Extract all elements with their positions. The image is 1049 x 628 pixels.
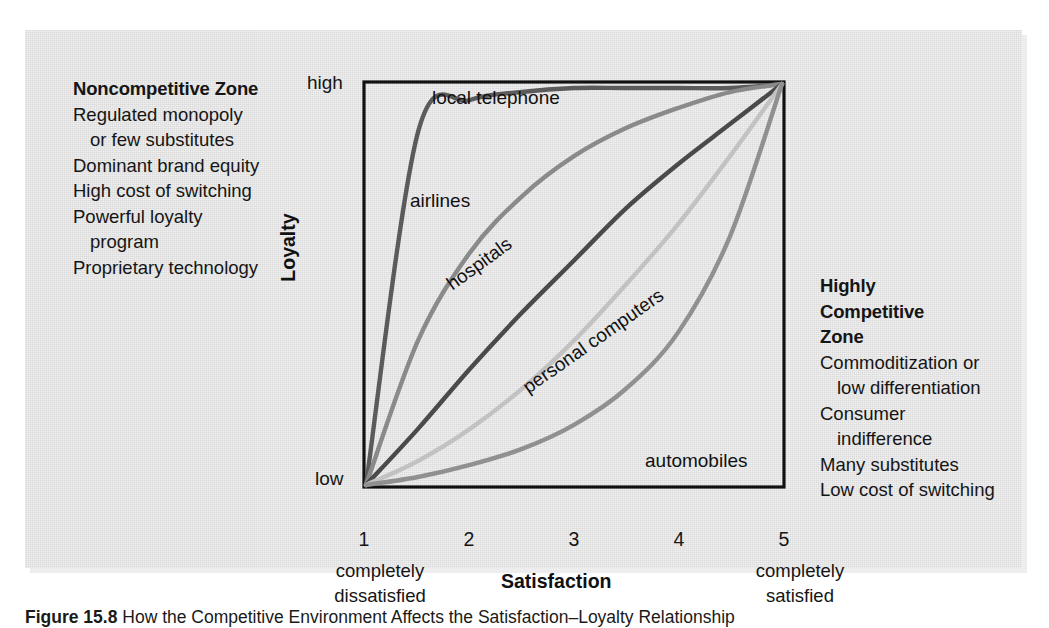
x-axis-right-note-line: completely: [725, 558, 875, 583]
x-tick-1: 1: [344, 528, 384, 551]
curve-label-automobiles: automobiles: [645, 450, 747, 472]
curve-group: [366, 84, 782, 485]
y-axis-high-label: high: [307, 72, 343, 94]
chart-area: high low Loyalty 1 2 3 4 5 Satisfaction …: [25, 30, 1022, 568]
figure-caption: Figure 15.8 How the Competitive Environm…: [25, 606, 1035, 628]
x-axis-right-note-line: satisfied: [725, 583, 875, 608]
figure-caption-number: Figure 15.8: [25, 607, 117, 627]
curve-automobiles: [366, 84, 782, 485]
x-tick-2: 2: [449, 528, 489, 551]
x-tick-4: 4: [659, 528, 699, 551]
y-axis-low-label: low: [315, 468, 344, 490]
x-axis-right-note: completely satisfied: [725, 558, 875, 608]
x-axis-left-note: completely dissatisfied: [305, 558, 455, 608]
y-axis-title: Loyalty: [277, 213, 300, 281]
satisfaction-loyalty-plot: [25, 30, 1022, 568]
x-axis-left-note-line: completely: [305, 558, 455, 583]
x-axis-title: Satisfaction: [501, 570, 612, 593]
curve-label-airlines: airlines: [410, 190, 470, 212]
figure-panel: Noncompetitive Zone Regulated monopoly o…: [25, 30, 1022, 568]
figure-caption-text: How the Competitive Environment Affects …: [117, 607, 734, 627]
x-tick-5: 5: [764, 528, 804, 551]
x-axis-left-note-line: dissatisfied: [305, 583, 455, 608]
curve-label-local-telephone: local telephone: [432, 87, 560, 109]
x-tick-3: 3: [554, 528, 594, 551]
